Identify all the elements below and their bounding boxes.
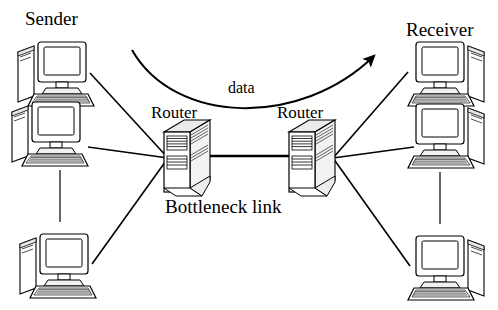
sender-label: Sender [25, 9, 78, 28]
sender-host-3 [20, 234, 96, 298]
router-right [289, 120, 335, 196]
data-flow-label: data [228, 80, 255, 96]
link-routerR-receiver2 [333, 147, 414, 158]
sender-host-2 [12, 102, 88, 166]
receiver-host-3 [408, 236, 484, 300]
link-routerR-receiver3 [333, 158, 410, 266]
router-left [164, 120, 210, 196]
link-layer [88, 72, 414, 266]
bottleneck-link-label: Bottleneck link [165, 197, 282, 216]
receiver-label: Receiver [406, 20, 474, 39]
receiver-host-2 [408, 104, 484, 168]
diagram-canvas [0, 0, 498, 310]
router-right-label: Router [277, 104, 323, 121]
link-sender2-routerL [88, 147, 168, 158]
sender-host-1 [18, 42, 94, 106]
network-topology-diagram: Sender Receiver Router Router data Bottl… [0, 0, 498, 310]
router-left-label: Router [151, 104, 197, 121]
link-sender3-routerL [92, 158, 168, 264]
receiver-host-1 [408, 42, 484, 106]
link-routerR-receiver1 [333, 72, 408, 158]
